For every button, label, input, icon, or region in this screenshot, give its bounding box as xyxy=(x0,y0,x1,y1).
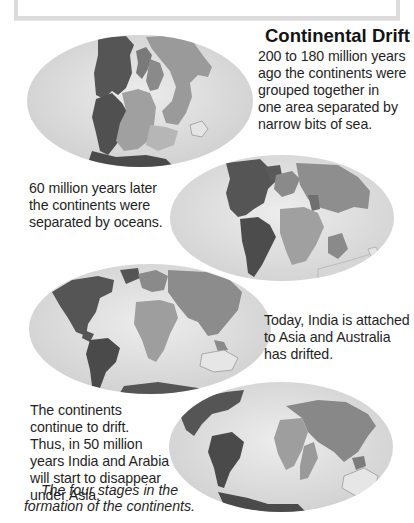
stage-2-line-3: separated by oceans. xyxy=(29,214,163,231)
caption-line-2: formation of the continents. xyxy=(22,498,197,514)
stage-3-line-2: to Asia and Australia xyxy=(264,329,410,346)
stage-3-line-1: Today, India is attached xyxy=(264,312,410,329)
future-globe-map xyxy=(168,380,394,514)
stage-1-line-3: grouped together in xyxy=(258,82,406,99)
stage-4-line-1: The continents xyxy=(30,402,169,419)
stage-1-line-5: narrow bits of sea. xyxy=(258,116,406,133)
stage-1-line-2: ago the continents were xyxy=(258,65,406,82)
stage-1-line-1: 200 to 180 million years xyxy=(258,48,406,65)
top-frame-box xyxy=(14,0,400,20)
stage-2-line-2: the continents were xyxy=(29,197,163,214)
present-day-globe-map xyxy=(28,262,272,396)
stage-4-line-3: Thus, in 50 million xyxy=(30,436,169,453)
stage-4-line-2: continue to drift. xyxy=(30,419,169,436)
caption-line-1: The four stages in the xyxy=(22,482,197,498)
stage-3-line-3: has drifted. xyxy=(264,346,410,363)
figure-caption: The four stages in the formation of the … xyxy=(22,482,197,514)
stage-2-line-1: 60 million years later xyxy=(29,180,163,197)
stage-1-description: 200 to 180 million years ago the contine… xyxy=(258,48,406,133)
stage-4-line-4: years India and Arabia xyxy=(30,453,169,470)
page-title: Continental Drift xyxy=(265,25,410,47)
stage-3-description: Today, India is attached to Asia and Aus… xyxy=(264,312,410,363)
pangaea-globe-map xyxy=(26,33,254,169)
stage-2-description: 60 million years later the continents we… xyxy=(29,180,163,231)
stage-1-line-4: one area separated by xyxy=(258,99,406,116)
